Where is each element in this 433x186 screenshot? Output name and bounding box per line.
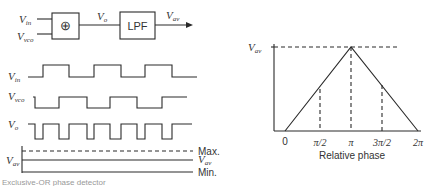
block-diagram: Vin Vvco ⊕ Vo LPF Vav — [17, 9, 193, 44]
x-tick-pi: π — [348, 137, 354, 148]
vav-output-label: Vav — [166, 9, 180, 23]
xor-phase-detector-figure: Vin Vvco ⊕ Vo LPF Vav Vin Vvco Vo Vav Ma… — [0, 0, 433, 186]
min-level-label: Min. — [198, 167, 217, 178]
xor-symbol-icon: ⊕ — [60, 18, 71, 33]
x-tick-pi-half: π/2 — [314, 137, 327, 148]
wave-vin-label: Vin — [8, 70, 21, 84]
wave-vvco-label: Vvco — [8, 90, 25, 104]
lpf-label: LPF — [127, 20, 147, 32]
wave-vvco — [33, 97, 187, 108]
figure-caption: Exclusive-OR phase detector — [2, 178, 106, 186]
wave-vo — [28, 124, 192, 139]
waveforms: Vin Vvco Vo — [8, 65, 197, 139]
arrowhead-icon — [186, 22, 193, 28]
phase-chart: Vav 0 π/2 π 3π/2 2π Relative phase — [248, 41, 424, 161]
wave-vin — [28, 65, 197, 77]
output-levels: Vav Max. Vav Min. — [6, 146, 220, 178]
input-vin-label: Vin — [19, 13, 32, 27]
x-tick-2pi: 2π — [413, 137, 424, 148]
y-axis-label: Vav — [248, 41, 262, 55]
wave-vo-label: Vo — [8, 118, 19, 132]
x-tick-0: 0 — [282, 136, 288, 147]
x-tick-3pi-half: 3π/2 — [372, 137, 391, 148]
levels-axis-label: Vav — [6, 154, 20, 168]
x-axis-label: Relative phase — [319, 150, 386, 161]
vo-label: Vo — [97, 10, 108, 24]
input-vvco-label: Vvco — [17, 30, 34, 44]
